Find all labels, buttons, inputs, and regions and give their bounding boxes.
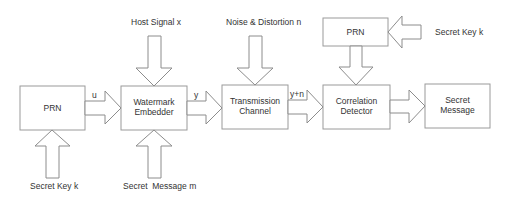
block-prn-left: PRN <box>20 86 85 130</box>
edge-label-y-plus-n: y+n <box>290 89 304 99</box>
block-prn-top-label: PRN <box>347 27 365 37</box>
input-secret-message-label: Secret Message m <box>123 181 196 191</box>
block-message-label-1: Secret <box>445 95 470 105</box>
block-detector-label-2: Detector <box>340 106 372 116</box>
arrow-up-icon <box>35 130 70 178</box>
arrow-right-icon <box>187 91 222 124</box>
block-correlation-detector: Correlation Detector <box>323 85 390 129</box>
block-embedder-label-1: Watermark <box>133 97 175 107</box>
block-watermark-embedder: Watermark Embedder <box>121 86 187 130</box>
block-detector-label-1: Correlation <box>336 96 378 106</box>
arrow-down-icon <box>237 36 273 85</box>
input-secret-key-bottom-label: Secret Key k <box>30 181 79 191</box>
input-noise-label: Noise & Distortion n <box>226 17 301 27</box>
arrow-down-icon <box>339 46 373 85</box>
arrow-right-icon <box>390 90 425 123</box>
block-channel-label-1: Transmission <box>230 96 280 106</box>
block-channel-label-2: Channel <box>239 106 271 116</box>
edge-label-y: y <box>194 90 199 100</box>
block-prn-left-label: PRN <box>44 103 62 113</box>
block-secret-message: Secret Message <box>425 84 490 128</box>
input-secret-key-top-label: Secret Key k <box>435 27 484 37</box>
arrow-left-icon <box>388 16 421 48</box>
arrow-up-icon <box>136 130 172 178</box>
edge-label-u: u <box>92 90 97 100</box>
arrow-down-icon <box>136 36 172 86</box>
input-host-signal-label: Host Signal x <box>131 17 182 27</box>
block-transmission-channel: Transmission Channel <box>222 85 288 129</box>
block-embedder-label-2: Embedder <box>134 107 173 117</box>
diagram-canvas: PRN Watermark Embedder Transmission Chan… <box>0 0 510 200</box>
arrow-right-icon <box>85 91 121 124</box>
block-prn-top: PRN <box>323 18 388 46</box>
block-message-label-2: Message <box>440 105 475 115</box>
